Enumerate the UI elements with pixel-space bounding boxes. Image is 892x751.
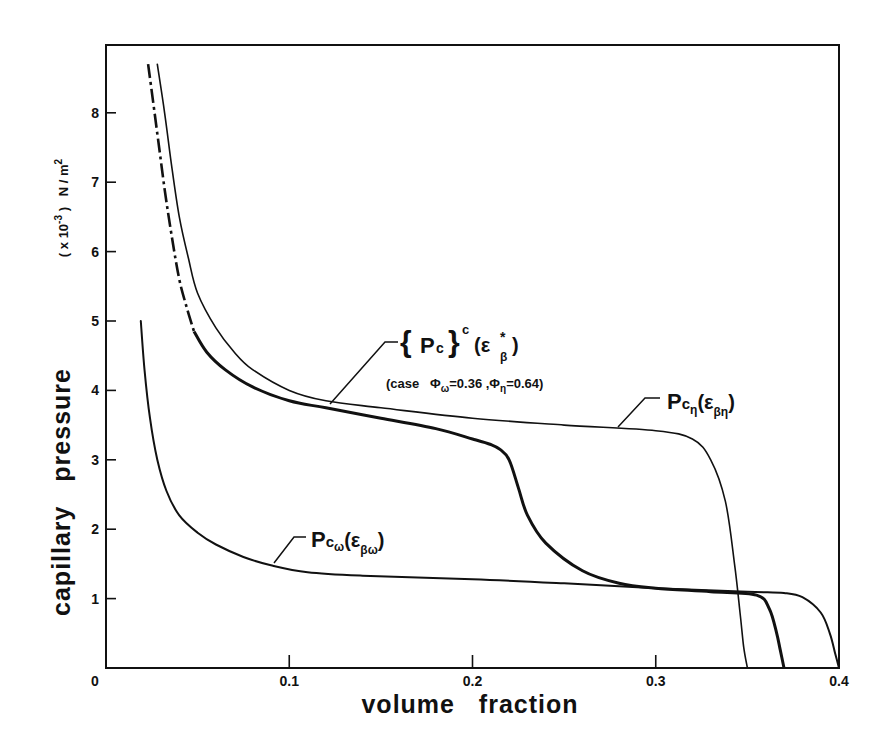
y-tick-label: 8 xyxy=(91,105,99,121)
plot-frame xyxy=(106,45,839,668)
y-tick-label: 2 xyxy=(91,521,99,537)
curve-pc-eta xyxy=(157,64,747,668)
svg-text:Pcω(εβω): Pcω(εβω) xyxy=(311,527,384,557)
y-axis-units: ( x 10-3 ) N / m2 xyxy=(53,158,71,257)
annotation-combined-curve: { { P P c } c (ε β * ) xyxy=(330,322,519,404)
x-axis-ticks: 00.10.20.30.4 xyxy=(91,655,849,689)
svg-text:*: * xyxy=(500,329,506,345)
y-tick-label: 7 xyxy=(91,174,99,190)
svg-text:P: P xyxy=(420,333,435,358)
y-tick-label: 6 xyxy=(91,244,99,260)
svg-text:c: c xyxy=(436,340,444,356)
x-tick-label: 0 xyxy=(91,673,99,689)
x-tick-label: 0.2 xyxy=(463,673,483,689)
y-tick-label: 1 xyxy=(91,591,99,607)
svg-text:): ) xyxy=(512,334,519,356)
curves xyxy=(141,64,839,668)
x-tick-label: 0.4 xyxy=(829,673,849,689)
curve-pc-combined-dashed xyxy=(148,64,194,331)
y-axis-title: capillary pressure xyxy=(47,368,75,616)
x-axis-title: volume fraction xyxy=(361,690,578,718)
annotation-case-parameters: (case Φω=0.36 ,Φη=0.64) xyxy=(386,376,543,394)
svg-text:c: c xyxy=(462,322,469,337)
svg-text:}: } xyxy=(448,325,460,358)
y-tick-label: 4 xyxy=(91,382,99,398)
y-tick-label: 3 xyxy=(91,452,99,468)
capillary-pressure-chart: 00.10.20.30.4 12345678 volume fraction c… xyxy=(0,0,892,751)
x-tick-label: 0.3 xyxy=(646,673,666,689)
svg-text:(ε: (ε xyxy=(474,334,491,356)
y-tick-label: 5 xyxy=(91,313,99,329)
annotation-pc-omega: Pcω(εβω) xyxy=(274,527,384,563)
y-axis-ticks: 12345678 xyxy=(91,105,116,607)
curve-pc-omega xyxy=(141,321,839,668)
annotation-pc-eta: Pcη(εβη) xyxy=(618,389,735,427)
svg-text:{: { xyxy=(400,325,412,358)
svg-text:β: β xyxy=(500,350,507,364)
svg-text:Pcη(εβη): Pcη(εβη) xyxy=(667,389,735,419)
x-tick-label: 0.1 xyxy=(280,673,300,689)
